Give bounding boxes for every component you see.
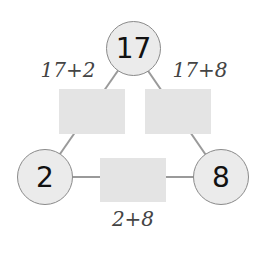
edge-label-top-right: 17+8: [173, 58, 228, 82]
node-right: 8: [193, 149, 249, 205]
edge-label-top-left: 17+2: [41, 58, 96, 82]
node-top: 17: [106, 21, 161, 76]
answer-box-bottom[interactable]: [100, 158, 166, 202]
answer-box-top-left[interactable]: [59, 89, 125, 134]
node-left: 2: [17, 149, 73, 205]
edge-label-bottom: 2+8: [112, 207, 154, 231]
answer-box-top-right[interactable]: [145, 89, 211, 134]
